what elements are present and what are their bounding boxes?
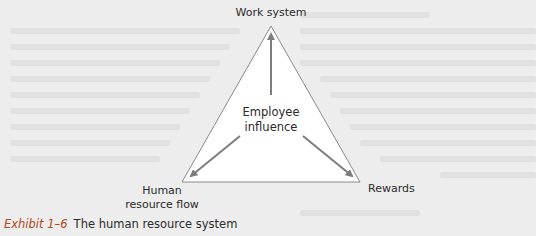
exhibit-number: Exhibit 1–6 xyxy=(4,217,68,231)
node-employee-influence-line1: Employee xyxy=(231,105,311,120)
figure-caption: Exhibit 1–6The human resource system xyxy=(4,217,237,231)
node-employee-influence-line2: influence xyxy=(231,120,311,135)
node-rewards-label: Rewards xyxy=(368,182,415,195)
caption-title: The human resource system xyxy=(74,217,238,231)
node-rewards: Rewards xyxy=(368,182,428,196)
node-employee-influence: Employee influence xyxy=(231,105,311,135)
node-work-system: Work system xyxy=(221,6,321,20)
node-human-resource-flow-line1: Human xyxy=(112,184,212,198)
node-human-resource-flow: Human resource flow xyxy=(112,184,212,212)
node-work-system-label: Work system xyxy=(235,6,306,19)
node-human-resource-flow-line2: resource flow xyxy=(112,198,212,212)
